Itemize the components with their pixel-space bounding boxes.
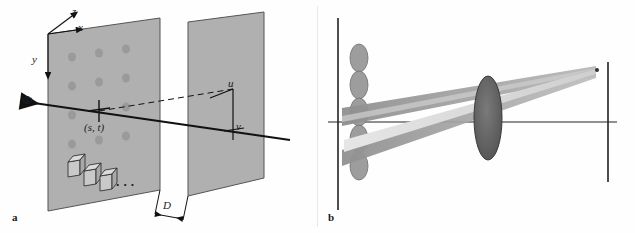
label-st-point: (s, t) [84, 121, 104, 133]
panel-b-tag: b [328, 211, 334, 223]
panel-a-tag: a [12, 211, 18, 223]
focus-point [595, 68, 599, 72]
main-lens [474, 76, 502, 160]
panel-b-graphics [320, 0, 635, 233]
panel-a: z x y Φ (s, t) u v D • • • a [0, 0, 320, 233]
label-v: v [236, 120, 241, 132]
label-axis-y: y [32, 53, 37, 65]
panel-b: b [320, 0, 635, 233]
figure-root: z x y Φ (s, t) u v D • • • a [0, 0, 635, 233]
label-ellipsis: • • • [116, 180, 135, 190]
label-ray-phi: Φ [22, 92, 33, 108]
uv-plane [188, 12, 264, 196]
panel-a-graphics [0, 0, 320, 233]
distance-bracket [155, 190, 188, 220]
label-axis-x: x [78, 21, 83, 33]
label-distance-d: D [163, 199, 171, 211]
label-axis-z: z [72, 5, 76, 17]
label-u: u [228, 77, 234, 89]
